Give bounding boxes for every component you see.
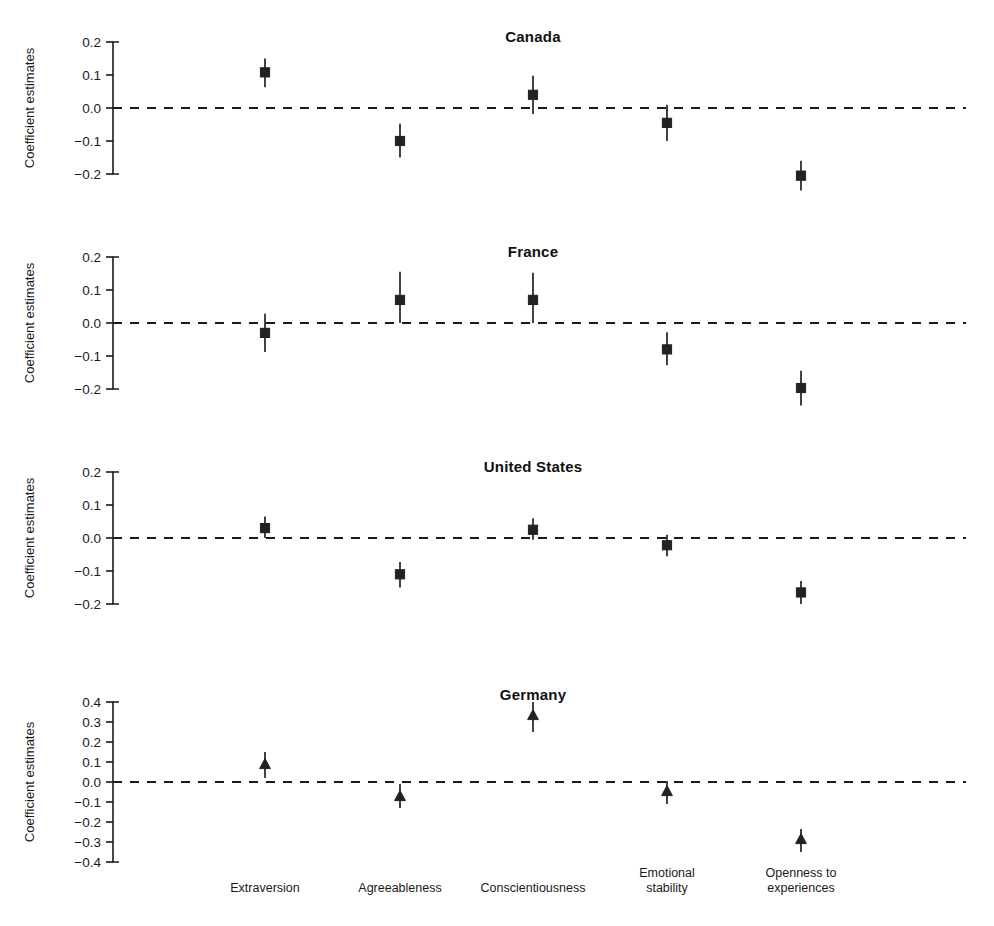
y-tick-label: −0.1	[74, 795, 101, 810]
point-marker-triangle	[260, 759, 271, 769]
x-axis-label-line: experiences	[721, 881, 881, 896]
point-marker-triangle	[395, 791, 406, 801]
x-axis-label-line: Openness to	[721, 866, 881, 881]
point-marker-triangle	[796, 834, 807, 844]
y-tick-label: 0.0	[82, 775, 101, 790]
y-tick-label: 0.1	[82, 755, 101, 770]
panel-plot-area: 0.40.30.20.10.0−0.1−0.2−0.3−0.4	[0, 0, 994, 926]
y-tick-label: 0.3	[82, 715, 101, 730]
panel-germany: GermanyCoefficient estimates0.40.30.20.1…	[0, 0, 994, 926]
point-marker-triangle	[528, 710, 539, 720]
coefficient-plot-figure: CanadaCoefficient estimates0.20.10.0−0.1…	[0, 0, 994, 926]
y-tick-label: −0.2	[74, 815, 101, 830]
y-tick-label: −0.4	[74, 855, 101, 870]
y-tick-label: 0.2	[82, 735, 101, 750]
y-tick-label: 0.4	[82, 695, 101, 710]
point-marker-triangle	[662, 786, 673, 796]
x-axis-label: Openness toexperiences	[721, 866, 881, 896]
y-tick-label: −0.3	[74, 835, 101, 850]
